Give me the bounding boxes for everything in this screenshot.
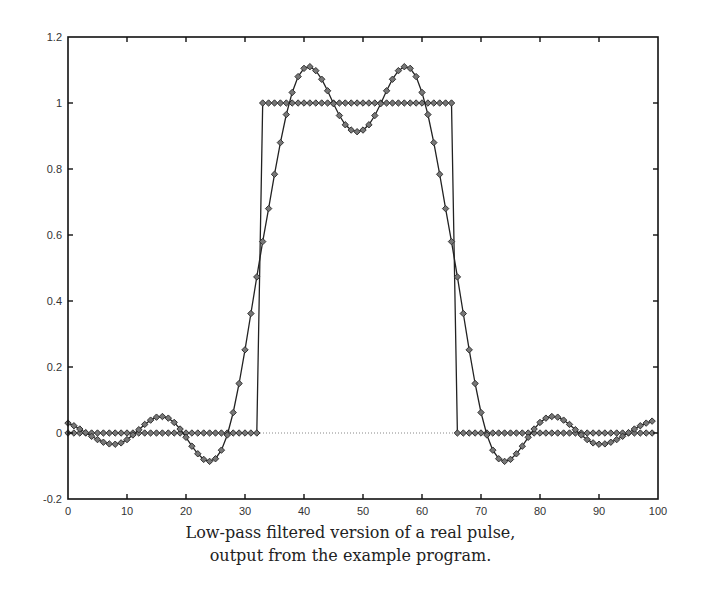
diamond-marker [112, 441, 118, 447]
diamond-marker [501, 458, 507, 464]
diamond-marker [637, 423, 643, 429]
diamond-marker [602, 441, 608, 447]
diamond-marker [596, 441, 602, 447]
diamond-marker [324, 88, 330, 94]
diamond-marker [271, 171, 277, 177]
diamond-marker [555, 414, 561, 420]
diamond-marker [372, 112, 378, 118]
diamond-marker [77, 426, 83, 432]
diamond-marker [100, 439, 106, 445]
diamond-marker [466, 347, 472, 353]
x-tick-label: 30 [239, 505, 251, 517]
x-tick-label: 0 [65, 505, 71, 517]
diamond-marker [448, 100, 454, 106]
x-tick-label: 70 [475, 505, 487, 517]
diamond-marker [71, 423, 77, 429]
series-line [68, 67, 652, 462]
diamond-marker [206, 458, 212, 464]
x-tick-label: 10 [121, 505, 133, 517]
diamond-marker [248, 310, 254, 316]
pulse-chart: 0102030405060708090100-0.200.20.40.60.81… [0, 0, 701, 520]
y-tick-label: 0.8 [47, 163, 62, 175]
y-tick-label: 1 [56, 97, 62, 109]
diamond-marker [236, 380, 242, 386]
x-tick-label: 90 [593, 505, 605, 517]
diamond-marker [625, 429, 631, 435]
series-layer [65, 64, 656, 465]
y-tick-label: 1.2 [47, 31, 62, 43]
x-tick-label: 40 [298, 505, 310, 517]
diamond-marker [425, 111, 431, 117]
diamond-marker [277, 139, 283, 145]
x-tick-label: 60 [416, 505, 428, 517]
x-tick-label: 50 [357, 505, 369, 517]
diamond-marker [631, 426, 637, 432]
diamond-marker [242, 347, 248, 353]
diamond-marker [289, 89, 295, 95]
diamond-marker [442, 205, 448, 211]
y-tick-label: 0.4 [47, 295, 62, 307]
figure-caption-line-1: Low-pass filtered version of a real puls… [0, 522, 701, 544]
x-tick-label: 80 [534, 505, 546, 517]
diamond-marker [254, 430, 260, 436]
series-original-pulse [65, 100, 656, 436]
diamond-marker [431, 139, 437, 145]
diamond-marker [478, 409, 484, 415]
series-filtered [65, 64, 656, 465]
diamond-marker [419, 89, 425, 95]
diamond-marker [437, 171, 443, 177]
diamond-marker [83, 429, 89, 435]
x-tick-label: 20 [180, 505, 192, 517]
diamond-marker [230, 409, 236, 415]
diamond-marker [590, 440, 596, 446]
y-tick-label: -0.2 [43, 493, 62, 505]
series-line [68, 103, 652, 433]
diamond-marker [549, 413, 555, 419]
diamond-marker [106, 441, 112, 447]
diamond-marker [336, 112, 342, 118]
diamond-marker [94, 436, 100, 442]
diamond-marker [265, 205, 271, 211]
y-tick-label: 0.6 [47, 229, 62, 241]
diamond-marker [354, 129, 360, 135]
diamond-marker [460, 310, 466, 316]
diamond-marker [118, 440, 124, 446]
diamond-marker [283, 111, 289, 117]
y-tick-label: 0 [56, 427, 62, 439]
diamond-marker [159, 413, 165, 419]
diamond-marker [472, 380, 478, 386]
y-tick-label: 0.2 [47, 361, 62, 373]
diamond-marker [614, 436, 620, 442]
diamond-marker [383, 88, 389, 94]
figure-caption-line-2: output from the example program. [0, 545, 701, 567]
x-tick-label: 100 [649, 505, 667, 517]
diamond-marker [153, 414, 159, 420]
diamond-marker [643, 420, 649, 426]
diamond-marker [608, 439, 614, 445]
diamond-marker [649, 418, 655, 424]
